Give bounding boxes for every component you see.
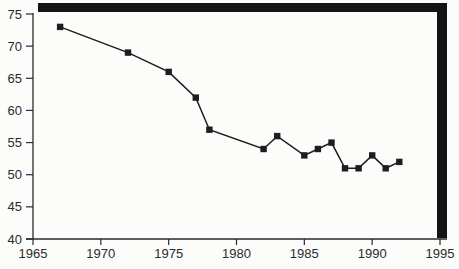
data-point-marker [125, 49, 131, 55]
tick-labels: 4045505560657075196519701975198019851990… [8, 7, 455, 262]
data-point-marker [206, 127, 212, 133]
data-point-marker [383, 165, 389, 171]
x-tick-label: 1970 [86, 246, 115, 261]
y-tick-label: 75 [8, 7, 22, 22]
data-point-marker [355, 165, 361, 171]
plot-frame-top-bar [38, 3, 447, 12]
y-tick-label: 55 [8, 135, 22, 150]
x-tick-label: 1985 [290, 246, 319, 261]
data-point-marker [396, 159, 402, 165]
data-point-marker [328, 139, 334, 145]
data-point-marker [260, 146, 266, 152]
x-tick-label: 1980 [222, 246, 251, 261]
data-point-marker [315, 146, 321, 152]
plot-frame-right-bar [437, 3, 447, 238]
y-tick-label: 40 [8, 232, 22, 247]
data-point-marker [274, 133, 280, 139]
data-point-marker [166, 69, 172, 75]
chart-canvas: 4045505560657075196519701975198019851990… [0, 0, 459, 269]
y-tick-label: 70 [8, 39, 22, 54]
chart-screenshot: 4045505560657075196519701975198019851990… [0, 0, 459, 269]
data-point-marker [193, 94, 199, 100]
y-tick-label: 50 [8, 167, 22, 182]
y-tick-label: 65 [8, 71, 22, 86]
series-line [60, 27, 399, 168]
axes [26, 13, 447, 245]
y-tick-label: 60 [8, 103, 22, 118]
data-series [57, 24, 403, 172]
data-point-marker [342, 165, 348, 171]
x-tick-label: 1990 [358, 246, 387, 261]
data-point-marker [57, 24, 63, 30]
x-tick-label: 1965 [19, 246, 48, 261]
data-point-marker [301, 152, 307, 158]
x-tick-label: 1975 [154, 246, 183, 261]
y-tick-label: 45 [8, 199, 22, 214]
x-tick-label: 1995 [426, 246, 455, 261]
plot-frame [38, 3, 447, 238]
data-point-marker [369, 152, 375, 158]
